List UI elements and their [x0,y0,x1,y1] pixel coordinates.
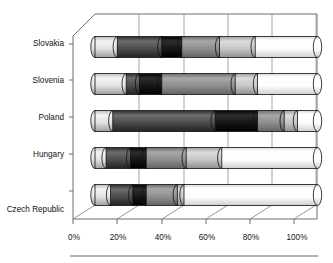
bar-segment [91,37,122,58]
bar-slovakia[interactable] [91,37,322,58]
stacked-bar-chart: Slovakia Slovenia Poland Hungary Czech R… [0,0,333,263]
bar-segment [162,74,240,95]
bar-czech-republic[interactable] [91,185,322,206]
x-tick-100: 100% [287,233,308,242]
bar-segment [220,37,260,58]
bar-hungary[interactable] [91,148,322,169]
bar-segment [184,185,322,206]
category-labels: Slovakia Slovenia Poland Hungary Czech R… [7,39,65,214]
x-tick-40: 40% [155,233,171,242]
bar-segment [146,185,181,206]
y-label-slovakia: Slovakia [33,39,64,48]
bar-segment [117,37,166,58]
bar-segment [182,37,224,58]
y-label-poland: Poland [39,113,65,122]
bar-segment [113,111,220,132]
x-tick-60: 60% [199,233,215,242]
bar-segment [258,74,322,95]
y-label-czech-republic: Czech Republic [7,205,64,214]
y-label-slovenia: Slovenia [33,76,65,85]
bar-segment [255,37,321,58]
x-tick-80: 80% [243,233,259,242]
chart-container: Slovakia Slovenia Poland Hungary Czech R… [0,0,333,263]
bar-poland[interactable] [91,111,322,132]
bar-segment [91,74,131,95]
x-tick-0: 0% [68,233,80,242]
y-label-hungary: Hungary [33,150,65,159]
bar-segment [186,148,226,169]
bar-slovenia[interactable] [91,74,322,95]
bar-segment [222,148,322,169]
x-axis-labels: 0% 20% 40% 60% 80% 100% [68,233,307,242]
bar-segment [215,111,262,132]
x-tick-20: 20% [110,233,126,242]
y-axis-ticks [69,44,73,191]
bar-segment [146,148,190,169]
bar-segment [258,111,289,132]
bar-segment [298,111,322,132]
x-axis-ticks [73,219,294,224]
